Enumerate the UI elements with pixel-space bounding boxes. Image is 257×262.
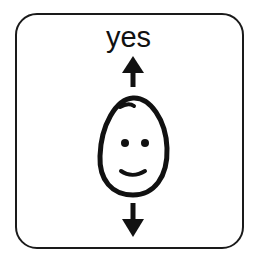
arrow-up-icon — [122, 56, 144, 87]
left-eye — [121, 139, 129, 147]
smile — [121, 171, 145, 175]
arrow-down-icon — [122, 203, 144, 237]
nodding-head-pictogram — [0, 0, 257, 262]
right-eye — [141, 139, 149, 147]
smiling-face-icon — [100, 98, 167, 195]
